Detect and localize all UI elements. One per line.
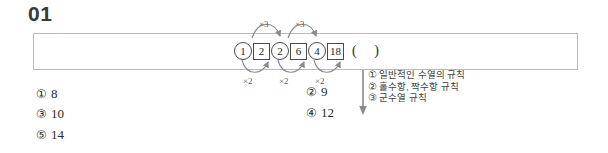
choice-option-1[interactable]: ①8 xyxy=(36,86,58,102)
choice-option-5[interactable]: ⑤14 xyxy=(36,127,64,143)
operation-label-above: ×3 xyxy=(295,19,305,29)
sequence-term: 2 xyxy=(271,42,289,60)
choice-value: 12 xyxy=(321,105,334,120)
rule-note-text: 홀수항, 짝수항 규칙 xyxy=(379,81,459,92)
rule-notes-list: ①일반적인 수열의 규칙 ②홀수항, 짝수항 규칙 ③군수열 규칙 xyxy=(368,69,465,104)
choice-value: 14 xyxy=(51,127,64,142)
rule-note-item: ②홀수항, 짝수항 규칙 xyxy=(368,81,465,93)
choice-option-4[interactable]: ④12 xyxy=(306,105,334,121)
rule-note-item: ①일반적인 수열의 규칙 xyxy=(368,69,465,81)
choice-marker: ⑤ xyxy=(36,128,47,143)
sequence-term: 1 xyxy=(234,42,252,60)
choice-option-2[interactable]: ②9 xyxy=(306,84,328,100)
choice-marker: ④ xyxy=(306,106,317,121)
choice-marker: ① xyxy=(36,87,47,102)
choice-marker: ③ xyxy=(36,107,47,122)
page-title: 01 xyxy=(28,2,52,26)
sequence-term: 6 xyxy=(290,43,307,60)
sequence-term: 2 xyxy=(253,43,270,60)
rule-note-marker: ② xyxy=(368,81,377,92)
sequence-term: 18 xyxy=(327,43,344,60)
operation-label-below: ×2 xyxy=(279,76,289,86)
sequence-term: 4 xyxy=(308,42,326,60)
choice-value: 8 xyxy=(51,86,58,101)
rule-note-marker: ③ xyxy=(368,92,377,103)
choice-marker: ② xyxy=(306,85,317,100)
worksheet-page: 01 1 2 2 6 4 18 ( ) ×3 ×3 ×2 ×2 ×2 ①8 ③1 xyxy=(0,0,608,153)
choice-value: 9 xyxy=(321,84,328,99)
answer-blank: ( ) xyxy=(352,43,386,59)
rule-note-text: 일반적인 수열의 규칙 xyxy=(379,69,465,80)
rule-note-marker: ① xyxy=(368,69,377,80)
choice-value: 10 xyxy=(51,106,64,121)
choice-option-3[interactable]: ③10 xyxy=(36,106,64,122)
rule-note-item: ③군수열 규칙 xyxy=(368,92,465,104)
operation-label-above: ×3 xyxy=(259,19,269,29)
operation-label-below: ×2 xyxy=(243,76,253,86)
rule-note-text: 군수열 규칙 xyxy=(379,92,427,103)
sequence-row: 1 2 2 6 4 18 ( ) xyxy=(234,40,386,62)
